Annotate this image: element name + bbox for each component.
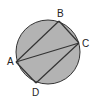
point-label-b: B <box>57 8 64 19</box>
point-label-a: A <box>7 56 14 67</box>
point-label-d: D <box>32 87 39 98</box>
point-label-c: C <box>82 38 89 49</box>
circle-diagram: ABCD <box>0 0 93 100</box>
diagram-canvas: ABCD <box>0 0 93 100</box>
